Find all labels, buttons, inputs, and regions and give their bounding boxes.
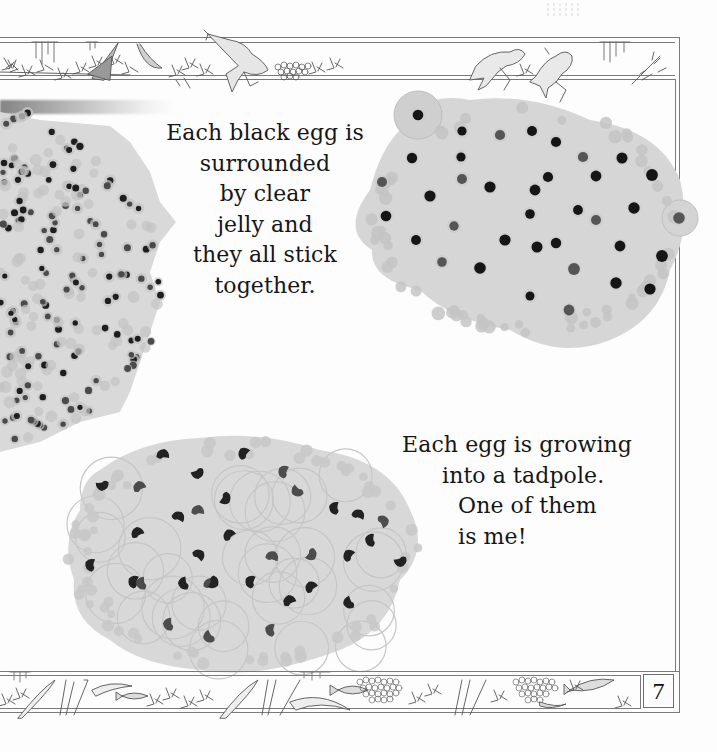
bottom-frieze-illustration: [0, 660, 640, 720]
pondweed-icon: [0, 54, 138, 80]
developing-tadpole-eggs: [60, 420, 450, 690]
caption-tadpole: Each egg is growing into a tadpole. One …: [402, 430, 652, 552]
reeds-icon: [18, 680, 486, 718]
small-fish-icon: [116, 692, 148, 700]
frogspawn-close-up-image: [330, 80, 700, 370]
page-number-text: 7: [653, 678, 665, 705]
frogspawn-clump-icon: [275, 62, 311, 80]
caption-line: is me!: [402, 522, 652, 553]
paper-speck: [545, 2, 581, 16]
caption-line: into a tadpole.: [402, 461, 652, 492]
frogspawn-close-up: [330, 80, 700, 370]
water-creature-icon: [137, 44, 162, 68]
frogspawn-clump-icon: [513, 677, 558, 703]
caption-line: they all stick: [150, 240, 380, 271]
caption-line: jelly and: [150, 210, 380, 241]
pond-life-frieze-bottom-icon: [0, 660, 640, 720]
fish-icon: [330, 685, 368, 695]
caption-line: surrounded: [150, 149, 380, 180]
book-page: Each black egg is surrounded by clear je…: [0, 0, 717, 752]
developing-tadpole-eggs-image: [60, 420, 450, 690]
caption-line: Each egg is growing: [402, 430, 652, 461]
caption-line: Each black egg is: [150, 118, 380, 149]
caption-jelly: Each black egg is surrounded by clear je…: [150, 118, 380, 301]
leaping-frog-icon: [204, 30, 268, 92]
caption-line: together.: [150, 271, 380, 302]
fish-icon: [564, 679, 614, 694]
page-number: 7: [643, 674, 674, 708]
caption-line: by clear: [150, 179, 380, 210]
caption-line: One of them: [402, 491, 652, 522]
bottom-frieze-divider: [640, 675, 641, 709]
